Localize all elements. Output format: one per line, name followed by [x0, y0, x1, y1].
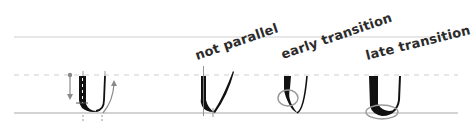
arrow-head-up-icon: [111, 80, 117, 86]
example-not-parallel: not parallel: [193, 20, 280, 117]
u-downstroke: [79, 76, 99, 112]
u-downstroke: [201, 76, 214, 112]
arrow-start-dot: [68, 73, 72, 77]
u-upstroke-thickening: [213, 71, 234, 113]
arrow-head-down-icon: [67, 94, 73, 100]
label-not-parallel: not parallel: [193, 20, 280, 62]
calligraphy-u-diagram: not parallel early transition late trans…: [0, 0, 475, 131]
u-upstroke: [297, 76, 307, 113]
u-upstroke: [393, 76, 400, 111]
u-downstroke: [369, 76, 396, 116]
u-downstroke: [284, 76, 298, 113]
u-upstroke: [96, 76, 105, 111]
